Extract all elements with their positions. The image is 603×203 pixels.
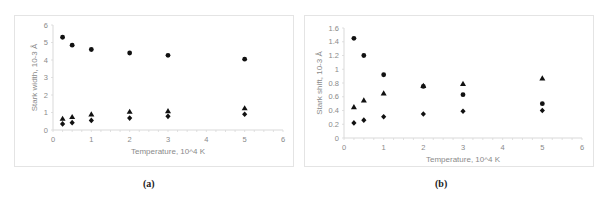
y-tick-label: 0 <box>335 134 339 143</box>
y-tick-label: 0 <box>44 126 48 135</box>
x-tick-label: 6 <box>580 143 584 152</box>
y-tick-label: 1.2 <box>329 51 339 60</box>
triangle-marker <box>69 114 75 119</box>
y-tick-label: 0.8 <box>329 79 339 88</box>
circle-marker <box>127 51 132 56</box>
x-axis-label: Temperature, 10^4 K <box>131 147 206 156</box>
y-tick-label: 1.4 <box>329 37 339 46</box>
chart-b-panel: 00.20.40.60.811.21.41.60123456Temperatur… <box>304 15 594 167</box>
circle-marker <box>70 43 75 48</box>
triangle-marker <box>165 108 171 113</box>
triangle-marker <box>539 75 545 80</box>
y-tick-label: 0.4 <box>329 106 339 115</box>
x-tick-label: 0 <box>342 143 346 152</box>
circle-marker <box>242 57 247 62</box>
diamond-marker <box>60 121 65 127</box>
series-diamond <box>60 111 247 126</box>
diamond-marker <box>351 120 356 126</box>
y-tick-label: 0.2 <box>329 120 339 129</box>
y-tick-label: 1.6 <box>329 24 339 33</box>
circle-marker <box>166 53 171 58</box>
chart-a-plot: 01234560123456Temperature, 10^4 KStark w… <box>15 16 293 166</box>
diamond-marker <box>540 108 545 114</box>
y-axis-label: Stark shift, 10-3 Å <box>315 51 324 115</box>
y-axis-label: Stark width, 10-3 Å <box>30 43 39 111</box>
triangle-marker <box>60 116 66 121</box>
diamond-marker <box>361 117 366 123</box>
x-tick-label: 3 <box>166 135 170 144</box>
circle-marker <box>352 36 357 41</box>
y-tick-label: 3 <box>44 73 48 82</box>
x-tick-label: 1 <box>382 143 386 152</box>
circle-marker <box>361 53 366 58</box>
triangle-marker <box>351 104 357 109</box>
x-tick-label: 2 <box>421 143 425 152</box>
y-tick-label: 2 <box>44 91 48 100</box>
series-diamond <box>351 108 545 126</box>
caption-a-text: (a) <box>143 178 155 189</box>
triangle-marker <box>381 90 387 95</box>
triangle-marker <box>242 105 248 110</box>
diamond-marker <box>165 114 170 120</box>
diamond-marker <box>460 108 465 114</box>
circle-marker <box>89 47 94 52</box>
diamond-marker <box>242 111 247 117</box>
y-tick-label: 1 <box>44 108 48 117</box>
y-tick-label: 0.6 <box>329 92 339 101</box>
circle-marker <box>540 101 545 106</box>
y-tick-label: 6 <box>44 21 48 30</box>
x-tick-label: 5 <box>243 135 247 144</box>
series-circle <box>60 35 247 62</box>
y-tick-label: 1 <box>335 65 339 74</box>
circle-marker <box>381 72 386 77</box>
y-tick-label: 4 <box>44 56 48 65</box>
x-tick-label: 5 <box>540 143 544 152</box>
circle-marker <box>461 92 466 97</box>
x-tick-label: 1 <box>89 135 93 144</box>
chart-b-plot: 00.20.40.60.811.21.41.60123456Temperatur… <box>305 16 593 166</box>
triangle-marker <box>460 81 466 86</box>
caption-b-text: (b) <box>435 178 447 189</box>
triangle-marker <box>127 109 133 114</box>
x-axis-label: Temperature, 10^4 K <box>426 155 501 164</box>
diamond-marker <box>127 115 132 121</box>
diamond-marker <box>89 118 94 124</box>
x-tick-label: 3 <box>461 143 465 152</box>
x-tick-label: 0 <box>51 135 55 144</box>
chart-a-panel: 01234560123456Temperature, 10^4 KStark w… <box>14 15 294 167</box>
x-tick-label: 6 <box>281 135 285 144</box>
circle-marker <box>60 35 65 40</box>
triangle-marker <box>361 97 367 102</box>
x-tick-label: 4 <box>204 135 208 144</box>
series-circle <box>352 36 545 106</box>
diamond-marker <box>381 114 386 120</box>
caption-a: (a) <box>143 178 155 189</box>
y-tick-label: 5 <box>44 38 48 47</box>
x-tick-label: 4 <box>501 143 505 152</box>
caption-b: (b) <box>435 178 447 189</box>
diamond-marker <box>70 120 75 126</box>
diamond-marker <box>421 111 426 117</box>
series-triangle <box>351 75 545 109</box>
series-triangle <box>60 105 248 121</box>
triangle-marker <box>88 111 94 116</box>
x-tick-label: 2 <box>128 135 132 144</box>
